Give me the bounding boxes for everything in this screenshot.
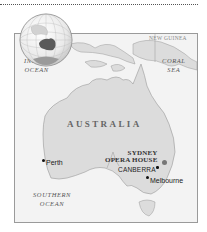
city-label-canberra: CANBERRA [118, 167, 156, 174]
dot-marker-icon [146, 176, 149, 179]
dotted-rule [0, 4, 198, 5]
city-label-melbourne: Melbourne [150, 177, 183, 184]
landmark-label-sydney-opera-house: SYDNEY OPERA HOUSE [105, 150, 158, 164]
globe-icon [19, 13, 73, 67]
large-dot-marker-icon [162, 160, 167, 165]
ocean-label-southern: SOUTHERN OCEAN [33, 192, 71, 207]
city-label-perth: Perth [46, 159, 63, 166]
country-label-indonesia: INDONESIA [85, 33, 118, 36]
continent-label-australia: AUSTRALIA [67, 120, 142, 129]
dot-marker-icon [42, 159, 45, 162]
country-label-papua-new-guinea: PAPUA NEW GUINEA [149, 33, 187, 41]
dot-marker-icon [156, 166, 159, 169]
sea-label-coral: CORAL SEA [162, 58, 186, 73]
